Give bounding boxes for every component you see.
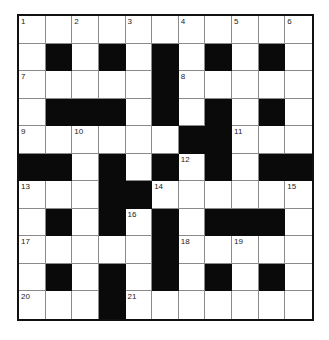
answer-cell[interactable] <box>232 264 259 292</box>
answer-cell[interactable] <box>179 181 206 209</box>
answer-cell[interactable] <box>285 236 312 264</box>
answer-cell[interactable] <box>152 126 179 154</box>
answer-cell[interactable] <box>99 126 126 154</box>
answer-cell[interactable] <box>205 16 232 44</box>
answer-cell[interactable] <box>152 16 179 44</box>
answer-cell[interactable] <box>19 44 46 72</box>
answer-cell[interactable] <box>72 209 99 237</box>
answer-cell[interactable]: 1 <box>19 16 46 44</box>
answer-cell[interactable]: 2 <box>72 16 99 44</box>
answer-cell[interactable] <box>259 291 286 319</box>
answer-cell[interactable] <box>285 126 312 154</box>
black-square <box>46 209 73 237</box>
answer-cell[interactable] <box>126 126 153 154</box>
answer-cell[interactable] <box>72 264 99 292</box>
answer-cell[interactable]: 3 <box>126 16 153 44</box>
answer-cell[interactable] <box>285 209 312 237</box>
clue-number: 2 <box>74 17 78 26</box>
answer-cell[interactable] <box>285 264 312 292</box>
answer-cell[interactable] <box>46 126 73 154</box>
answer-cell[interactable] <box>126 236 153 264</box>
answer-cell[interactable] <box>72 236 99 264</box>
answer-cell[interactable]: 13 <box>19 181 46 209</box>
black-square <box>179 126 206 154</box>
answer-cell[interactable] <box>259 126 286 154</box>
answer-cell[interactable] <box>232 44 259 72</box>
answer-cell[interactable] <box>179 264 206 292</box>
clue-number: 19 <box>234 237 243 246</box>
answer-cell[interactable] <box>152 291 179 319</box>
answer-cell[interactable] <box>232 71 259 99</box>
answer-cell[interactable] <box>72 154 99 182</box>
answer-cell[interactable] <box>72 71 99 99</box>
black-square <box>152 264 179 292</box>
answer-cell[interactable] <box>179 99 206 127</box>
answer-cell[interactable]: 20 <box>19 291 46 319</box>
black-square <box>205 126 232 154</box>
answer-cell[interactable] <box>285 71 312 99</box>
answer-cell[interactable]: 17 <box>19 236 46 264</box>
answer-cell[interactable] <box>46 16 73 44</box>
answer-cell[interactable]: 6 <box>285 16 312 44</box>
clue-number: 4 <box>181 17 185 26</box>
answer-cell[interactable] <box>46 181 73 209</box>
answer-cell[interactable] <box>205 291 232 319</box>
answer-cell[interactable] <box>232 291 259 319</box>
answer-cell[interactable] <box>126 44 153 72</box>
answer-cell[interactable] <box>285 99 312 127</box>
answer-cell[interactable]: 5 <box>232 16 259 44</box>
answer-cell[interactable] <box>99 236 126 264</box>
answer-cell[interactable] <box>72 181 99 209</box>
answer-cell[interactable] <box>232 154 259 182</box>
answer-cell[interactable] <box>99 16 126 44</box>
black-square <box>259 154 286 182</box>
answer-cell[interactable] <box>99 71 126 99</box>
clue-number: 6 <box>287 17 291 26</box>
answer-cell[interactable] <box>232 181 259 209</box>
black-square <box>259 99 286 127</box>
answer-cell[interactable]: 19 <box>232 236 259 264</box>
answer-cell[interactable] <box>46 291 73 319</box>
answer-cell[interactable] <box>72 291 99 319</box>
answer-cell[interactable] <box>232 99 259 127</box>
answer-cell[interactable] <box>259 236 286 264</box>
answer-cell[interactable]: 7 <box>19 71 46 99</box>
answer-cell[interactable]: 14 <box>152 181 179 209</box>
answer-cell[interactable] <box>126 99 153 127</box>
clue-number: 1 <box>21 17 25 26</box>
answer-cell[interactable] <box>46 236 73 264</box>
black-square <box>232 209 259 237</box>
answer-cell[interactable] <box>179 209 206 237</box>
black-square <box>99 209 126 237</box>
answer-cell[interactable] <box>205 236 232 264</box>
answer-cell[interactable] <box>285 44 312 72</box>
answer-cell[interactable] <box>19 264 46 292</box>
answer-cell[interactable]: 15 <box>285 181 312 209</box>
answer-cell[interactable]: 8 <box>179 71 206 99</box>
answer-cell[interactable]: 4 <box>179 16 206 44</box>
answer-cell[interactable] <box>205 181 232 209</box>
answer-cell[interactable] <box>19 209 46 237</box>
answer-cell[interactable]: 21 <box>126 291 153 319</box>
answer-cell[interactable] <box>19 99 46 127</box>
answer-cell[interactable] <box>72 44 99 72</box>
answer-cell[interactable] <box>179 291 206 319</box>
answer-cell[interactable]: 11 <box>232 126 259 154</box>
answer-cell[interactable] <box>179 44 206 72</box>
answer-cell[interactable]: 18 <box>179 236 206 264</box>
answer-cell[interactable] <box>259 181 286 209</box>
answer-cell[interactable] <box>46 71 73 99</box>
answer-cell[interactable] <box>126 264 153 292</box>
answer-cell[interactable] <box>259 16 286 44</box>
answer-cell[interactable] <box>126 154 153 182</box>
black-square <box>19 154 46 182</box>
answer-cell[interactable] <box>205 71 232 99</box>
clue-number: 14 <box>154 182 163 191</box>
answer-cell[interactable] <box>126 71 153 99</box>
answer-cell[interactable] <box>259 71 286 99</box>
answer-cell[interactable]: 10 <box>72 126 99 154</box>
answer-cell[interactable]: 16 <box>126 209 153 237</box>
answer-cell[interactable]: 9 <box>19 126 46 154</box>
answer-cell[interactable]: 12 <box>179 154 206 182</box>
answer-cell[interactable] <box>285 291 312 319</box>
